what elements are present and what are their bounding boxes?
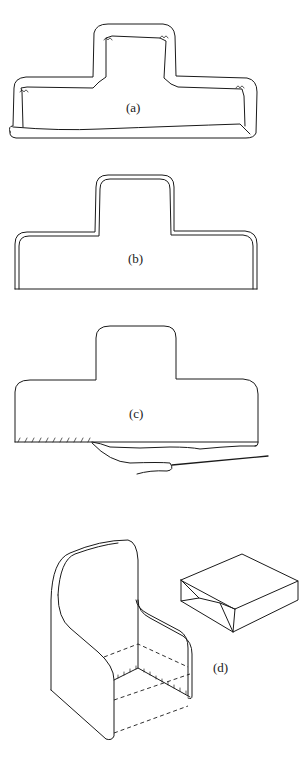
seat-seam bbox=[114, 668, 190, 697]
panel-b: (b) bbox=[15, 175, 257, 289]
seat-low-dashes bbox=[114, 706, 188, 733]
panel-c-label: (c) bbox=[129, 406, 143, 421]
figure-canvas: (a) (b) (c) (d) bbox=[0, 0, 301, 769]
hem-stitch-marks bbox=[18, 438, 90, 442]
chair-back-piping bbox=[58, 543, 118, 595]
panel-b-outer-outline bbox=[15, 175, 257, 289]
overcast-stitch-marks bbox=[20, 36, 244, 92]
seat-mid-dashes bbox=[114, 674, 190, 700]
panel-b-inner-outline bbox=[19, 179, 253, 289]
panel-a-outer-outline bbox=[9, 24, 257, 138]
panel-b-label: (b) bbox=[128, 251, 143, 266]
seat-top-dashes bbox=[104, 644, 188, 667]
chair-back-outer bbox=[51, 540, 192, 699]
cushion-box-front-edges bbox=[181, 580, 298, 632]
panel-d-label: (d) bbox=[213, 660, 228, 675]
panel-c-folded-hem bbox=[92, 442, 256, 449]
cushion-box-top bbox=[181, 554, 298, 609]
panel-c: (c) bbox=[15, 326, 268, 474]
seat-seam-stitches bbox=[118, 666, 186, 694]
panel-a-label: (a) bbox=[126, 100, 140, 115]
chair-left-side bbox=[51, 595, 114, 740]
panel-c-outline bbox=[15, 326, 258, 446]
panel-d: (d) bbox=[51, 540, 298, 740]
panel-a: (a) bbox=[9, 24, 257, 138]
needle-icon bbox=[172, 456, 268, 465]
panel-a-folded-edge bbox=[13, 124, 250, 134]
